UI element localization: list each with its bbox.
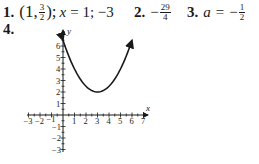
y-tick-label: 1 <box>56 99 60 109</box>
parabola-graph: −3−2−11234567−3−2−1123456 x y <box>0 0 259 164</box>
x-tick-label: 1 <box>72 116 76 126</box>
x-tick-label: 5 <box>118 116 122 126</box>
y-tick-label: 3 <box>56 76 60 86</box>
y-tick-label: 4 <box>56 64 61 74</box>
svg-text:−1: −1 <box>52 122 61 132</box>
parabola-curve <box>63 40 132 92</box>
x-tick-label: 7 <box>141 116 145 126</box>
y-tick-label: 2 <box>56 87 60 97</box>
tick-labels: −3−2−11234567−3−2−1123456 <box>24 41 146 155</box>
x-tick-label: −3 <box>24 116 33 126</box>
y-tick-label: −2 <box>52 133 61 143</box>
y-axis-label: y <box>66 26 71 36</box>
x-axis-label: x <box>145 103 150 113</box>
y-tick-label: 5 <box>56 53 60 63</box>
x-tick-label: −2 <box>35 116 44 126</box>
y-tick-label: −3 <box>52 145 61 155</box>
x-tick-label: 3 <box>95 116 99 126</box>
x-tick-label: 4 <box>107 116 112 126</box>
y-tick-label: 6 <box>56 41 60 51</box>
x-tick-label: 2 <box>84 116 88 126</box>
x-tick-label: 6 <box>130 116 134 126</box>
